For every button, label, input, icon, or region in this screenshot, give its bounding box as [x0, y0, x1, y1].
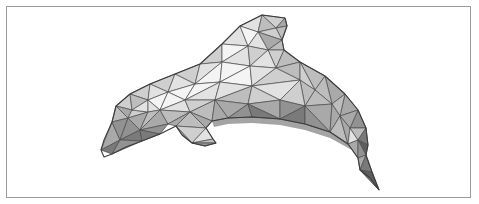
dolphin-mesh-figure — [0, 0, 479, 204]
dolphin-mesh-triangles — [101, 15, 379, 190]
